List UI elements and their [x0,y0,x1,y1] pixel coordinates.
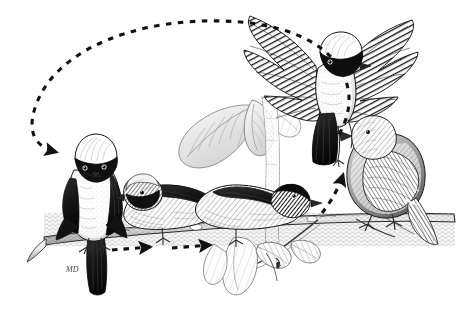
illustration-canvas: MD [0,0,463,313]
artist-monogram: MD [65,265,79,274]
bird-behaviour-illustration: Bird display sequence [0,0,463,313]
artist-monogram-text: MD [65,265,79,274]
